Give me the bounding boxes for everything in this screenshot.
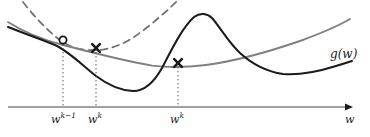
solid-quadratic-model-curve — [8, 19, 350, 67]
x-axis-arrow-icon — [345, 104, 353, 111]
tick-exponent-2: k — [97, 111, 102, 120]
cost-function-curve — [8, 14, 352, 91]
point-marker-open-circle-icon — [59, 36, 66, 43]
point-marker-cross-lower-icon — [174, 59, 182, 67]
tick-base-2: w — [88, 113, 97, 126]
tick-exponent-3: k — [179, 111, 184, 120]
dashed-quadratic-model-curve — [23, 1, 177, 50]
tick-exponent-1: k−1 — [60, 111, 76, 120]
curve-label-g-of-w: g(w) — [330, 48, 357, 60]
tick-label-w-k-upper: wk — [88, 114, 102, 125]
figure-container: w^{k-1} wk−1 wk wk w g(w) — [0, 0, 370, 137]
x-axis-label: w — [345, 114, 354, 125]
tick-label-w-k-minus-1: w^{k-1} wk−1 — [51, 114, 76, 125]
tick-base-3: w — [170, 113, 179, 126]
tick-label-w-k-lower: wk — [170, 114, 184, 125]
tick-base-1: w — [51, 113, 60, 126]
